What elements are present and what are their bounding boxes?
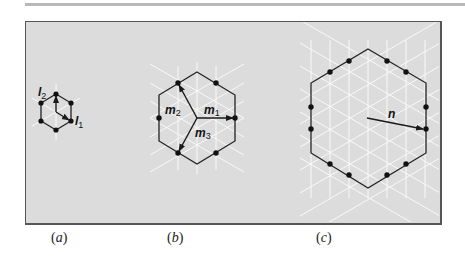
lattice-lines-c [300,20,440,239]
label-l2: l2 [38,85,46,101]
subfigure-b: m1 m2 m3 [150,62,244,174]
label-l1: l1 [75,114,83,130]
label-m3: m3 [195,126,211,141]
caption-a: (a) [51,230,67,246]
subfigure-c: n [300,20,440,239]
lattice-diagram: l2 l1 m1 m2 m3 [0,0,465,262]
caption-c: (c) [316,230,332,246]
caption-b: (b) [167,230,183,246]
label-m1: m1 [204,103,220,118]
label-n: n [388,107,395,121]
vector-l1 [56,112,69,120]
subfigure-a: l2 l1 [32,84,83,140]
